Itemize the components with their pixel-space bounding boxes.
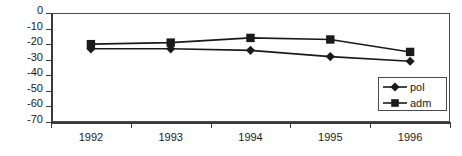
series-pol bbox=[86, 44, 414, 66]
data-point-square bbox=[406, 48, 414, 56]
legend-label-adm: adm bbox=[410, 97, 431, 109]
legend-entry-pol: pol bbox=[379, 78, 448, 95]
data-point-square bbox=[326, 35, 334, 43]
data-point-diamond bbox=[406, 57, 415, 66]
data-point-square bbox=[167, 38, 175, 46]
legend-marker-diamond-icon bbox=[382, 80, 408, 94]
data-point-diamond bbox=[326, 52, 335, 61]
data-point-square bbox=[87, 40, 95, 48]
chart-legend: pol adm bbox=[378, 77, 447, 111]
data-point-diamond bbox=[246, 46, 255, 55]
line-chart: 0-10-20-30-40-50-60-70 19921993199419951… bbox=[0, 0, 462, 156]
data-point-square bbox=[246, 34, 254, 42]
legend-entry-adm: adm bbox=[379, 94, 448, 111]
legend-label-pol: pol bbox=[410, 81, 425, 93]
legend-marker-square-icon bbox=[382, 96, 408, 110]
